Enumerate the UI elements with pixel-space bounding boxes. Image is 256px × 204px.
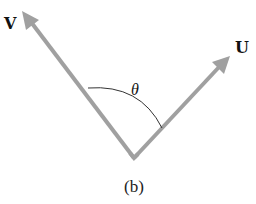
figure-caption: (b) (124, 177, 144, 196)
diagram-svg: V U θ (b) (0, 0, 256, 204)
angle-arc (88, 88, 162, 128)
vector-v (22, 11, 134, 158)
vector-v-label: V (3, 14, 17, 33)
vector-u-label: U (235, 38, 249, 57)
vector-u-shaft (134, 66, 220, 158)
vector-u (134, 56, 230, 158)
angle-theta-label: θ (131, 81, 139, 98)
vertex-join (130, 153, 138, 158)
vector-angle-diagram: V U θ (b) (0, 0, 256, 204)
